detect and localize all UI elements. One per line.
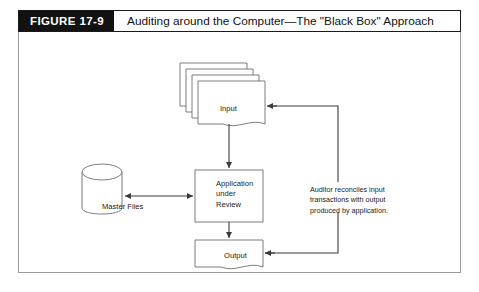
figure-body: Input Master Files Application under Rev…: [18, 32, 461, 273]
input-document-stack: [180, 63, 265, 126]
figure-number-badge: FIGURE 17-9: [19, 11, 114, 31]
output-label: Output: [224, 251, 247, 261]
figure-header: FIGURE 17-9 Auditing around the Computer…: [18, 10, 461, 32]
connector-auditor-path: [265, 106, 338, 253]
input-label: Input: [220, 104, 237, 114]
application-label: Application under Review: [216, 179, 253, 210]
flowchart-svg: [19, 32, 462, 273]
figure-title: Auditing around the Computer—The "Black …: [114, 11, 460, 31]
master-files-label: Master Files: [102, 202, 143, 212]
figure-frame: FIGURE 17-9 Auditing around the Computer…: [18, 10, 461, 273]
auditor-annotation: Auditor reconciles input transactions wi…: [310, 185, 388, 216]
flowchart-diagram: Input Master Files Application under Rev…: [19, 32, 462, 273]
